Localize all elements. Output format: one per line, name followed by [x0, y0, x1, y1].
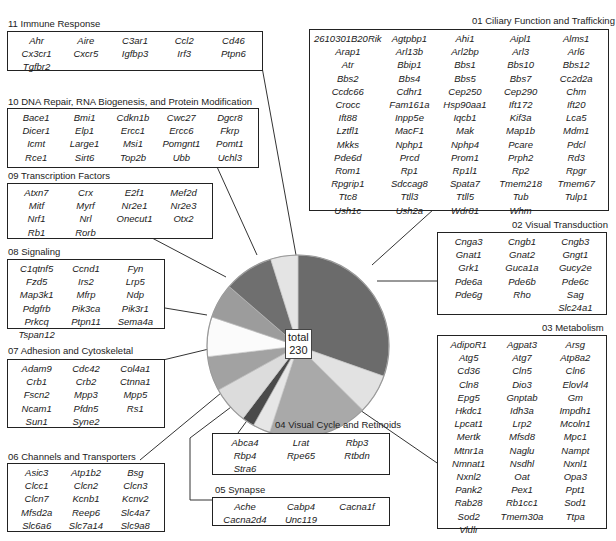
gene-label: Bbs7: [493, 72, 549, 85]
group-box-06: Asic3Atp1b2BsgClcc1Clcn2Clcn3Clcn7Kcnb1K…: [7, 463, 165, 532]
gene-grid-06: Asic3Atp1b2BsgClcc1Clcn2Clcn3Clcn7Kcnb1K…: [8, 464, 164, 534]
gene-label: Ttll3: [382, 190, 438, 203]
gene-label: Bsg: [111, 466, 160, 479]
gene-label: Irf3: [160, 47, 209, 60]
gene-label: Pde6d: [314, 151, 382, 164]
group-title-06: 06 Channels and Transporters: [8, 451, 136, 462]
gene-label: Agpat3: [495, 338, 548, 351]
gene-label: Ahr: [12, 34, 61, 47]
gene-label: Slc7a14: [61, 519, 110, 532]
group-box-03: AdipoR1Agpat3ArsgAtg5Atg7Atp8a2Cd36Cln5C…: [437, 335, 607, 529]
gene-label: Uchl3: [206, 151, 254, 164]
total-label-text: total: [288, 331, 309, 344]
gene-label: Kif3a: [493, 111, 549, 124]
gene-label: Mtnr1a: [442, 444, 495, 457]
gene-label: Fyn: [111, 262, 160, 275]
gene-label: Guca1a: [495, 261, 548, 274]
gene-label: Bbs12: [548, 58, 604, 71]
group-box-02: Cnga3Cngb1Cngb3Gnat1Gnat2Gngt1Grk1Guca1a…: [437, 232, 607, 315]
gene-label: Alms1: [548, 32, 604, 45]
gene-label: Ift172: [493, 98, 549, 111]
pie-total-label: total 230: [285, 329, 312, 359]
gene-label: Cd46: [209, 34, 258, 47]
gene-label: Pik3ca: [61, 302, 110, 315]
gene-label: Ubb: [157, 151, 205, 164]
gene-label: Gm: [549, 391, 602, 404]
gene-label: Cep250: [437, 85, 493, 98]
group-box-07: Adam9Cdc42Col4a1Crb1Crb2Ctnna1Fscn2Mpp3M…: [7, 359, 165, 428]
gene-label: Pank2: [442, 483, 495, 496]
gene-label: Pde6g: [442, 288, 495, 301]
gene-label: Lztfl1: [314, 124, 382, 137]
gene-label: Myrf: [61, 199, 110, 212]
gene-label: Asic3: [12, 466, 61, 479]
gene-label: Crx: [61, 186, 110, 199]
gene-label: Cln5: [495, 364, 548, 377]
gene-label: Nampt: [549, 444, 602, 457]
gene-label: Wdr81: [437, 204, 493, 217]
group-title-02: 02 Visual Transduction: [512, 219, 608, 230]
gene-label: Gnptab: [495, 391, 548, 404]
gene-label: Sod2: [442, 510, 495, 523]
gene-label: Nrl: [61, 212, 110, 225]
gene-label: Ache: [217, 500, 273, 513]
gene-label: Nr2e3: [159, 199, 208, 212]
gene-label: Cngb1: [495, 235, 548, 248]
group-box-10: Bace1Bmi1Cdkn1bCwc27Dgcr8Dicer1Elp1Ercc1…: [7, 108, 259, 168]
gene-label: Ift20: [548, 98, 604, 111]
group-box-01: 2610301B20RikAgtpbp1Ahi1Aipl1Alms1Arap1A…: [309, 29, 609, 211]
gene-label: Igfbp3: [110, 47, 159, 60]
gene-label: Ptpn6: [209, 47, 258, 60]
gene-label: Cdc42: [61, 362, 110, 375]
gene-label: Atg5: [442, 351, 495, 364]
gene-label: Ttc8: [314, 190, 382, 203]
gene-label: Mfsd2a: [12, 506, 61, 519]
gene-label: Cacna1f: [329, 500, 385, 513]
gene-label: Aire: [61, 34, 110, 47]
gene-label: Rpgr: [548, 164, 604, 177]
gene-label: Oat: [495, 470, 548, 483]
gene-label: Lrp2: [495, 417, 548, 430]
connector-07: [163, 348, 213, 360]
gene-label: Lpcat1: [442, 417, 495, 430]
gene-label: Cx3cr1: [12, 47, 61, 60]
gene-label: Bmi1: [60, 111, 108, 124]
gene-label: Tmem30a: [495, 510, 548, 523]
gene-label: Bbs10: [493, 58, 549, 71]
gene-label: Cd36: [442, 364, 495, 377]
gene-label: Cln6: [549, 364, 602, 377]
gene-label: Gngt1: [549, 248, 602, 261]
gene-label: Clcn2: [61, 479, 110, 492]
gene-label: Sdccag8: [382, 177, 438, 190]
gene-label: Lrp5: [111, 275, 160, 288]
connector-11: [260, 56, 296, 255]
gene-label: Msi1: [109, 137, 157, 150]
gene-label: Pde6b: [495, 275, 548, 288]
gene-label: Adam9: [12, 362, 61, 375]
gene-label: Ccnd1: [61, 262, 110, 275]
gene-label: Cngb3: [549, 235, 602, 248]
group-box-11: AhrAireC3ar1Ccl2Cd46Cx3cr1Cxcr5Igfbp3Irf…: [7, 31, 263, 71]
gene-label: Arsg: [549, 338, 602, 351]
gene-label: Bbs4: [382, 72, 438, 85]
gene-label: Clcc1: [12, 479, 61, 492]
gene-label: Ercc1: [109, 124, 157, 137]
gene-grid-09: Atxn7CrxE2f1Mef2dMitfMyrfNr2e1Nr2e3Nrf1N…: [8, 184, 212, 241]
gene-label: Ttpa: [549, 510, 602, 523]
gene-label: Bace1: [12, 111, 60, 124]
gene-label: Lrat: [273, 436, 329, 449]
gene-label: Aipl1: [493, 32, 549, 45]
gene-label: Prph2: [493, 151, 549, 164]
gene-label: Top2b: [109, 151, 157, 164]
group-title-07: 07 Adhesion and Cytoskeletal: [8, 345, 133, 356]
gene-label: Slc6a6: [12, 519, 61, 532]
gene-grid-08: C1qtnf5Ccnd1FynFzd5Irs2Lrp5Map3k1MfrpNdp…: [8, 260, 164, 343]
group-box-04: Abca4LratRbp3Rbp4Rpe65RtbdnStra6: [212, 433, 390, 475]
gene-label: Hkdc1: [442, 404, 495, 417]
gene-label: Rtbdn: [329, 449, 385, 462]
gene-label: Cep290: [493, 85, 549, 98]
gene-label: Rbp4: [217, 449, 273, 462]
group-title-05: 05 Synapse: [215, 484, 265, 495]
gene-label: Sema4a: [111, 315, 160, 328]
gene-label: Ush2a: [382, 204, 438, 217]
